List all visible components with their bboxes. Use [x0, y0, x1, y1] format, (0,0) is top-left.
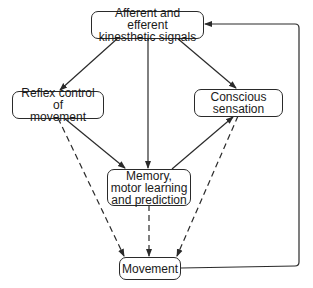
node-movement: Movement	[119, 257, 181, 280]
node-kinesthetic-signals: Afferent and efferent kinesthetic signal…	[91, 11, 204, 39]
node-label: Memory, motor learning and prediction	[111, 170, 188, 206]
node-reflex-control: Reflex control of movement	[12, 91, 104, 119]
node-memory-learning-prediction: Memory, motor learning and prediction	[107, 169, 191, 206]
edge-reflex-to-memory	[64, 118, 125, 168]
node-label: Afferent and efferent kinesthetic signal…	[94, 7, 201, 43]
node-conscious-sensation: Conscious sensation	[194, 89, 283, 117]
node-label: Reflex control of movement	[15, 87, 101, 123]
edge-signals-to-reflex	[60, 38, 118, 90]
edge-memory-to-conscious	[172, 117, 233, 169]
node-label: Movement	[122, 263, 178, 275]
node-label: Conscious sensation	[210, 91, 266, 115]
edge-signals-to-conscious	[177, 38, 236, 88]
